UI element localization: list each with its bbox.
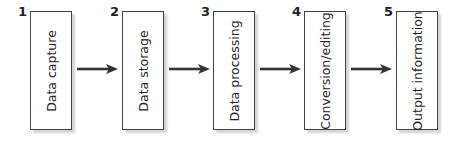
step-number-2: 2 xyxy=(110,5,119,18)
step-label: Data capture xyxy=(44,30,59,112)
step-number-1: 1 xyxy=(18,5,27,18)
step-box-data-processing: Data processing xyxy=(213,11,255,130)
step-box-data-capture: Data capture xyxy=(30,11,72,130)
arrow-right-icon xyxy=(169,63,210,75)
arrow-right-icon xyxy=(260,63,301,75)
step-label: Conversion/editing xyxy=(318,12,333,130)
arrow-right-icon xyxy=(77,63,118,75)
step-label: Data processing xyxy=(227,20,242,121)
step-number-3: 3 xyxy=(201,5,210,18)
step-number-5: 5 xyxy=(384,5,393,18)
step-number-4: 4 xyxy=(292,5,301,18)
step-box-data-storage: Data storage xyxy=(122,11,164,130)
step-box-conversion-editing: Conversion/editing xyxy=(304,11,346,130)
arrow-right-icon xyxy=(351,63,392,75)
step-label: Output information xyxy=(410,11,425,131)
step-label: Data storage xyxy=(136,30,151,111)
step-box-output-information: Output information xyxy=(396,11,438,130)
